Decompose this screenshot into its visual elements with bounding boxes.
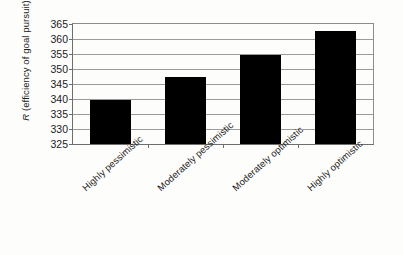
y-axis-tick-mark <box>69 129 73 130</box>
y-axis-tick-mark <box>69 69 73 70</box>
y-axis-tick-label: 350 <box>50 64 68 75</box>
y-axis-title: R (efficiency of goal pursuit) <box>20 0 31 141</box>
y-axis-tick-label: 330 <box>50 124 68 135</box>
y-axis-tick-mark <box>69 39 73 40</box>
x-axis-category-label: Highly optimistic <box>305 138 365 193</box>
y-axis-tick-mark <box>69 54 73 55</box>
y-axis-tick-mark <box>69 99 73 100</box>
y-axis-tick-mark <box>69 24 73 25</box>
y-axis-tick-mark <box>69 144 73 145</box>
y-axis-tick-label: 355 <box>50 49 68 60</box>
y-axis-tick-label: 360 <box>50 34 68 45</box>
y-axis-tick-label: 340 <box>50 94 68 105</box>
bar <box>315 31 356 144</box>
y-axis-tick-mark <box>69 114 73 115</box>
bar <box>165 77 206 144</box>
y-axis-tick-label: 365 <box>50 19 68 30</box>
bar <box>240 55 281 144</box>
y-axis-tick-mark <box>69 84 73 85</box>
y-axis-tick-label: 325 <box>50 139 68 150</box>
bar <box>90 100 131 144</box>
x-axis-tick-mark <box>148 144 149 148</box>
x-axis-tick-mark <box>223 144 224 148</box>
y-axis-tick-label: 345 <box>50 79 68 90</box>
bar-chart-figure: R (efficiency of goal pursuit) 325330335… <box>0 0 403 255</box>
y-axis-tick-label: 335 <box>50 109 68 120</box>
y-axis-title-text: (efficiency of goal pursuit) <box>20 0 31 114</box>
x-axis-tick-mark <box>298 144 299 148</box>
y-axis-title-symbol: R <box>20 114 31 121</box>
